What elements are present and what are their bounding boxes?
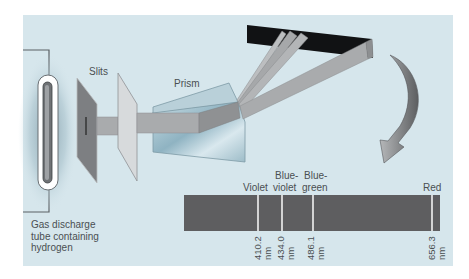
light-beam-1: [97, 117, 118, 135]
spectrum-bar: [184, 195, 440, 231]
slits-label: Slits: [89, 66, 108, 78]
light-beam-2: [137, 113, 199, 133]
tube-label: Gas discharge tube containing hydrogen: [31, 219, 99, 254]
wavelength-label-410: 410.2 nm: [253, 236, 273, 260]
blue-violet-label: Blue- violet: [273, 170, 298, 193]
discharge-tube-icon: [18, 53, 78, 213]
prism-label: Prism: [174, 78, 200, 90]
wavelength-label-656: 656.3 nm: [427, 236, 447, 260]
violet-label: Violet: [243, 170, 268, 193]
wavelength-label-434: 434.0 nm: [276, 236, 296, 260]
red-label: Red: [423, 170, 441, 193]
hydrogen-emission-spectrum-diagram: Slits Prism Gas discharge tube containin…: [0, 0, 469, 279]
blue-green-label: Blue- green: [302, 170, 328, 193]
wavelength-label-486: 486.1 nm: [306, 236, 326, 260]
